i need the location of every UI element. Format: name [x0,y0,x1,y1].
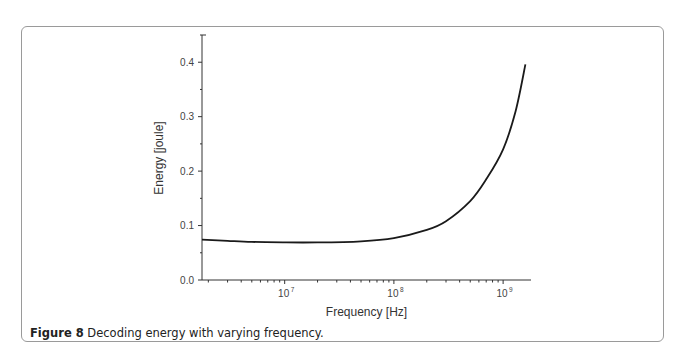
y-axis-label: Energy [joule] [152,121,166,194]
y-tick-label: 0.4 [180,57,194,68]
figure-caption-text: Decoding energy with varying frequency. [87,326,323,340]
x-tick-label: 10 [278,288,290,299]
x-tick-label: 10 [497,288,509,299]
x-tick-label-exponent: 7 [291,286,295,293]
chart: 0.00.10.20.30.4107108109Frequency [Hz]En… [0,0,687,363]
y-tick-label: 0.0 [180,275,194,286]
x-tick-label-exponent: 9 [509,286,513,293]
data-series-line [202,64,525,242]
figure-caption: Figure 8 Decoding energy with varying fr… [30,326,324,340]
y-tick-label: 0.3 [180,111,194,122]
y-tick-label: 0.1 [180,220,194,231]
y-tick-label: 0.2 [180,166,194,177]
figure-label: Figure 8 [30,326,84,340]
x-axis-label: Frequency [Hz] [326,305,407,319]
x-tick-label-exponent: 8 [400,286,404,293]
x-tick-label: 10 [387,288,399,299]
